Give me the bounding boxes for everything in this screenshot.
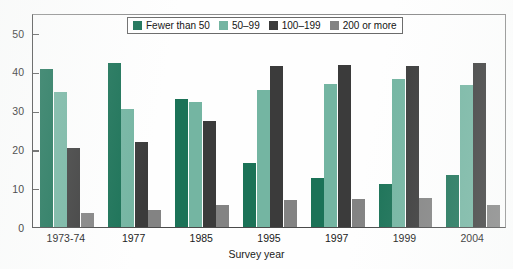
- bar: [175, 99, 188, 227]
- legend-swatch-icon: [269, 21, 278, 30]
- bar: [270, 66, 283, 227]
- bar: [81, 213, 94, 227]
- y-axis-tick-mark: [33, 73, 39, 74]
- x-axis-tick-label: 1995: [257, 231, 280, 245]
- bar: [189, 102, 202, 227]
- y-axis-tick-label: 40: [12, 66, 24, 78]
- bar-group: [40, 13, 94, 227]
- legend-swatch-icon: [330, 21, 339, 30]
- legend-item-label: Fewer than 50: [146, 20, 210, 31]
- plot-area: [32, 14, 506, 228]
- bar: [460, 85, 473, 227]
- bar: [311, 178, 324, 227]
- y-axis-tick: 10: [0, 183, 33, 195]
- legend-item: Fewer than 50: [133, 20, 210, 31]
- bar-group: [175, 13, 229, 227]
- bar: [203, 121, 216, 227]
- y-axis-tick-label: 50: [12, 28, 24, 40]
- legend-item: 100–199: [269, 20, 321, 31]
- legend-item-label: 100–199: [282, 20, 321, 31]
- x-axis-tick-label: 1977: [122, 231, 145, 245]
- y-axis-tick-mark: [33, 112, 39, 113]
- bar: [324, 84, 337, 227]
- x-axis-tick-label: 1973-74: [47, 231, 86, 245]
- bar: [379, 184, 392, 227]
- bar: [54, 92, 67, 227]
- bar: [121, 109, 134, 227]
- legend-swatch-icon: [219, 21, 228, 30]
- legend-item-label: 200 or more: [343, 20, 397, 31]
- bar: [352, 199, 365, 227]
- bar: [257, 90, 270, 227]
- legend-swatch-icon: [133, 21, 142, 30]
- y-axis-tick: 40: [0, 66, 33, 78]
- bar: [392, 79, 405, 227]
- bar: [67, 148, 80, 227]
- legend-item: 200 or more: [330, 20, 397, 31]
- y-axis-tick: 30: [0, 105, 33, 117]
- bar: [108, 63, 121, 227]
- x-axis-tick-label: 1997: [325, 231, 348, 245]
- y-axis-tick-mark: [33, 34, 39, 35]
- chart-legend: Fewer than 5050–99100–199200 or more: [127, 17, 403, 34]
- bar: [419, 198, 432, 227]
- y-axis-tick: 20: [0, 144, 33, 156]
- y-axis-tick: 50: [0, 28, 33, 40]
- bar: [148, 210, 161, 227]
- bar-group: [311, 13, 365, 227]
- x-axis-tick-label: 1999: [393, 231, 416, 245]
- y-axis-tick-label: 10: [12, 183, 24, 195]
- bar-group: [379, 13, 433, 227]
- x-axis-tick-label: 2004: [460, 231, 483, 245]
- bar: [406, 66, 419, 227]
- bar: [243, 163, 256, 227]
- y-axis-tick-label: 20: [12, 144, 24, 156]
- bar: [40, 69, 53, 227]
- bar-group: [243, 13, 297, 227]
- bar: [473, 63, 486, 227]
- bar: [446, 175, 459, 227]
- y-axis-tick-mark: [33, 189, 39, 190]
- bar: [487, 205, 500, 227]
- bar: [135, 142, 148, 227]
- legend-item-label: 50–99: [232, 20, 260, 31]
- x-axis-title: Survey year: [0, 248, 513, 260]
- bar: [338, 65, 351, 227]
- y-axis-tick-mark: [33, 150, 39, 151]
- x-axis: 1973-74197719851995199719992004: [0, 231, 513, 247]
- bar-group: [108, 13, 162, 227]
- bar: [284, 200, 297, 227]
- x-axis-tick-label: 1985: [190, 231, 213, 245]
- bar-group: [446, 13, 500, 227]
- bar-chart-figure: 50403020100 1973-74197719851995199719992…: [0, 0, 513, 269]
- legend-item: 50–99: [219, 20, 260, 31]
- y-axis: 50403020100: [0, 0, 33, 269]
- y-axis-tick-label: 30: [12, 105, 24, 117]
- bar: [216, 205, 229, 228]
